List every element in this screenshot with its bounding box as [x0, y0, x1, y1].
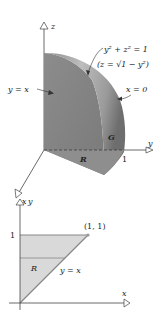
plane-x-eq-0-label: x = 0 [126, 85, 147, 94]
solid-figure-3d: z y x 1 y² + z² = 1 (z = √1 − y²) y = x … [7, 22, 153, 206]
region-r-label-3d: R [79, 154, 87, 164]
point-1-1 [86, 233, 89, 236]
plane-y-eq-x-label: y = x [7, 85, 29, 94]
region-figure-2d: y x 1 (1, 1) y = x R [9, 197, 130, 310]
z-axis-arrow-icon [40, 22, 48, 29]
z-axis-label: z [50, 22, 56, 31]
x-axis [18, 150, 44, 194]
y-axis-label-3d: y [147, 139, 153, 148]
solid-g-label: G [108, 132, 115, 142]
y-tick-1-3d: 1 [122, 155, 127, 164]
surface-equation-label: y² + z² = 1 [103, 45, 148, 54]
region-r-label-2d: R [30, 264, 37, 273]
surface-explicit-label: (z = √1 − y²) [97, 60, 149, 69]
x-axis-label-2d: x [122, 289, 127, 298]
x-axis-arrow-icon [15, 189, 22, 198]
diagram-canvas: z y x 1 y² + z² = 1 (z = √1 − y²) y = x … [0, 0, 162, 323]
x-axis-2d-arrow-icon [124, 299, 130, 307]
y-tick-1-2d: 1 [10, 231, 15, 240]
line-y-eq-x-label: y = x [59, 266, 81, 275]
point-1-1-label: (1, 1) [84, 222, 106, 231]
y-axis-label-2d: y [27, 197, 33, 206]
